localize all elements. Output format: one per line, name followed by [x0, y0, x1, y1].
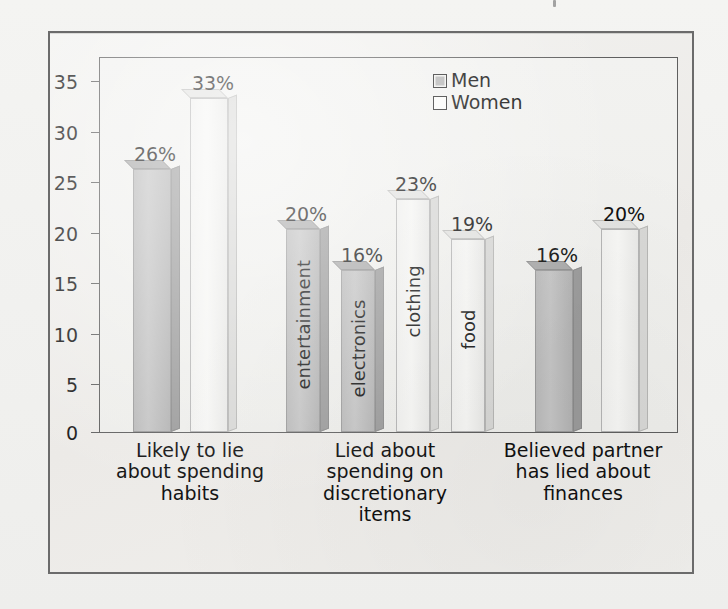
- bar-side-face: [485, 236, 494, 432]
- y-tick-label-30: 30: [54, 122, 78, 144]
- bar-value-g2-women-clothing: 23%: [395, 173, 437, 195]
- bar-value-g3-men: 16%: [536, 244, 578, 266]
- bar-front-face: [535, 270, 573, 432]
- category-label-2-line2: spending on: [285, 461, 485, 482]
- category-label-1-line3: habits: [85, 483, 295, 504]
- bar-value-g3-women: 20%: [603, 203, 645, 225]
- bar-side-face: [639, 226, 648, 432]
- category-label-3: Believed partner has lied about finances: [476, 440, 691, 504]
- category-label-2-line4: items: [285, 504, 485, 525]
- bar-side-face: [430, 196, 439, 432]
- scan-speck-top: [553, 0, 556, 7]
- bar-front-face: [601, 229, 639, 432]
- bar-g1-men[interactable]: [133, 169, 171, 432]
- y-tick-label-0: 0: [66, 422, 78, 444]
- bar-inner-label-entertainment: entertainment: [293, 262, 314, 390]
- legend-swatch-men-icon: [433, 74, 447, 88]
- category-label-3-line2: has lied about: [476, 461, 691, 482]
- y-tick-label-20: 20: [54, 223, 78, 245]
- bar-side-face: [573, 267, 582, 432]
- category-label-2: Lied about spending on discretionary ite…: [285, 440, 485, 525]
- bar-g3-men[interactable]: [535, 270, 573, 432]
- bar-g2-men-electronics[interactable]: electronics: [341, 270, 375, 432]
- bar-g2-women-clothing[interactable]: clothing: [396, 199, 430, 432]
- y-tick-30: 30: [91, 132, 100, 133]
- bar-value-g2-men-entertainment: 20%: [285, 203, 327, 225]
- bar-inner-label-food: food: [458, 299, 479, 361]
- legend-swatch-women-icon: [433, 96, 447, 110]
- bar-g1-women[interactable]: [190, 98, 228, 432]
- y-tick-5: 5: [91, 384, 100, 385]
- bar-side-face: [171, 166, 180, 432]
- y-tick-35: 35: [91, 81, 100, 82]
- bar-front-face: [190, 98, 228, 432]
- bar-side-face: [375, 267, 384, 432]
- bar-g3-women[interactable]: [601, 229, 639, 432]
- y-tick-label-25: 25: [54, 172, 78, 194]
- bar-g2-men-entertainment[interactable]: entertainment: [286, 229, 320, 432]
- category-label-2-line1: Lied about: [285, 440, 485, 461]
- y-tick-label-35: 35: [54, 71, 78, 93]
- bar-side-face: [228, 95, 237, 432]
- chart-page: 35 30 25 20 15 10 5 0: [0, 0, 728, 609]
- bar-front-face: [133, 169, 171, 432]
- legend-label-women: Women: [451, 92, 523, 114]
- y-tick-label-5: 5: [66, 374, 78, 396]
- bar-value-g2-women-food: 19%: [451, 213, 493, 235]
- category-label-1: Likely to lie about spending habits: [85, 440, 295, 504]
- bar-value-g1-women: 33%: [192, 72, 234, 94]
- bar-side-face: [320, 226, 329, 432]
- bar-value-g1-men: 26%: [134, 143, 176, 165]
- y-tick-25: 25: [91, 182, 100, 183]
- category-label-2-line3: discretionary: [285, 483, 485, 504]
- bar-inner-label-electronics: electronics: [348, 294, 369, 404]
- chart-frame: 35 30 25 20 15 10 5 0: [48, 31, 694, 574]
- bar-g2-women-food[interactable]: food: [451, 239, 485, 432]
- bar-value-g2-men-electronics: 16%: [341, 244, 383, 266]
- y-tick-20: 20: [91, 233, 100, 234]
- y-tick-label-15: 15: [54, 273, 78, 295]
- category-label-3-line1: Believed partner: [476, 440, 691, 461]
- y-tick-label-10: 10: [54, 324, 78, 346]
- legend-item-men: Men: [433, 70, 523, 92]
- y-tick-0: 0: [91, 432, 100, 433]
- legend-label-men: Men: [451, 70, 491, 92]
- legend: Men Women: [433, 70, 523, 114]
- category-label-1-line2: about spending: [85, 461, 295, 482]
- y-tick-15: 15: [91, 283, 100, 284]
- plot-area: 35 30 25 20 15 10 5 0: [99, 57, 678, 433]
- category-label-3-line3: finances: [476, 483, 691, 504]
- category-label-1-line1: Likely to lie: [85, 440, 295, 461]
- y-tick-10: 10: [91, 334, 100, 335]
- legend-item-women: Women: [433, 92, 523, 114]
- bar-inner-label-clothing: clothing: [403, 254, 424, 350]
